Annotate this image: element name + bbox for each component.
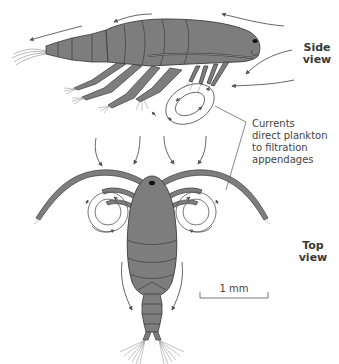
side-mouthparts: [189, 62, 229, 86]
top-view-copepod: [34, 170, 270, 364]
side-swimming-legs: [74, 62, 182, 108]
top-view-label-line2: view: [296, 252, 330, 264]
side-view-label-line2: view: [300, 54, 334, 66]
callout-line3: to filtration: [252, 142, 338, 154]
callout-line2: direct plankton: [252, 130, 338, 142]
side-tail-setae: [12, 49, 46, 65]
callout-line1: Currents: [252, 118, 338, 130]
top-view-label: Top view: [296, 240, 330, 264]
scale-bar-label: 1 mm: [209, 283, 259, 295]
diagram-canvas: [0, 0, 339, 364]
side-view-label: Side view: [300, 42, 334, 66]
top-tail-setae: [120, 340, 184, 364]
top-incoming-arrows: [95, 136, 206, 166]
currents-callout: Currents direct plankton to filtration a…: [252, 118, 338, 166]
copepod-diagram: Side view Currents direct plankton to fi…: [0, 0, 339, 364]
callout-line4: appendages: [252, 154, 338, 166]
side-view-copepod: [12, 19, 260, 113]
top-eye: [149, 181, 155, 185]
side-eye: [252, 39, 257, 43]
